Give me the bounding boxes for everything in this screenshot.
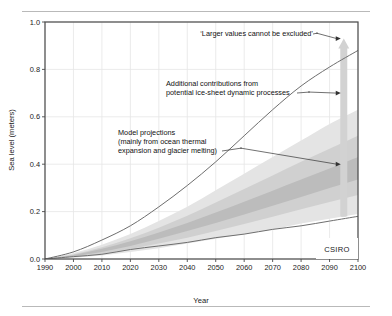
x-tick-label: 2000 [65, 263, 81, 272]
source-attribution-box: CSIRO [316, 238, 358, 259]
y-tick-label: 0.6 [30, 112, 40, 121]
x-tick-label: 2030 [151, 263, 167, 272]
annotation-ice-sheet-line2: potential ice-sheet dynamic processes [166, 88, 290, 97]
x-tick-label: 2080 [293, 263, 309, 272]
y-tick-label: 0.2 [30, 207, 40, 216]
x-tick-label: 2020 [122, 263, 138, 272]
x-tick-label: 2050 [208, 263, 224, 272]
x-tick-label: 2010 [94, 263, 110, 272]
annotation-model-projections-line2: (mainly from ocean thermal [118, 137, 207, 146]
x-tick-label: 2100 [350, 263, 366, 272]
y-tick-label: 0.0 [30, 255, 40, 264]
x-tick-label: 2040 [179, 263, 195, 272]
y-tick-label: 0.8 [30, 65, 40, 74]
y-tick-label: 1.0 [30, 18, 40, 27]
source-label: CSIRO [324, 245, 350, 254]
sea-level-projection-chart: 1990200020102020203020402050206020702080… [0, 0, 392, 316]
annotation-model-projections-line3: expansion and glacier melting) [118, 146, 217, 155]
annotation-larger-values: ‘Larger values cannot be excluded’ [200, 29, 313, 38]
x-tick-label: 1990 [37, 263, 53, 272]
chart-svg: 1990200020102020203020402050206020702080… [0, 0, 392, 316]
y-axis-title: Sea level (meters) [7, 109, 16, 171]
annotation-model-projections-line1: Model projections [118, 128, 176, 137]
y-axis-tick-labels: 0.00.20.40.60.81.0 [30, 18, 45, 264]
annotation-ice-sheet-line1: Additional contributions from [166, 79, 258, 88]
y-tick-label: 0.4 [30, 160, 40, 169]
x-axis-title: Year [193, 296, 209, 305]
x-tick-label: 2090 [321, 263, 337, 272]
x-tick-label: 2060 [236, 263, 252, 272]
x-axis-tick-labels: 1990200020102020203020402050206020702080… [37, 259, 366, 272]
x-tick-label: 2070 [264, 263, 280, 272]
